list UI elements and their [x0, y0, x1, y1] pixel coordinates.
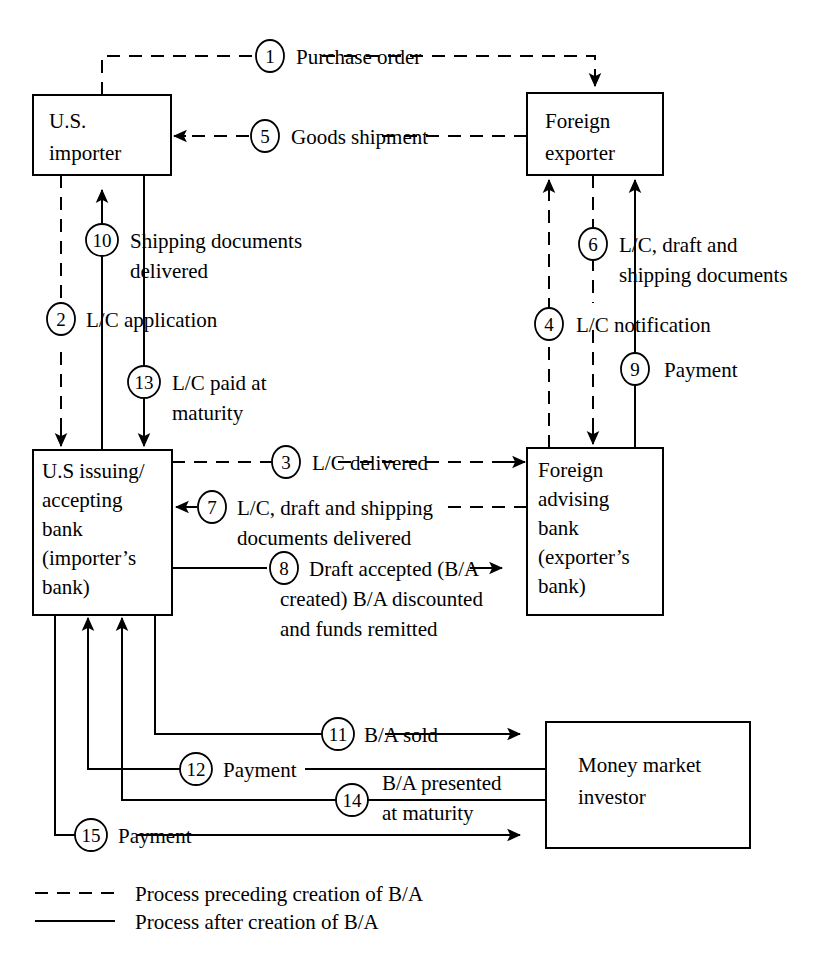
step-label-1: Purchase order — [296, 45, 421, 69]
node-label-line: exporter — [545, 141, 615, 165]
node-label-line: investor — [578, 785, 646, 809]
step-label-2: L/C application — [86, 308, 218, 332]
node-label-line: importer — [49, 141, 121, 165]
step-number: 8 — [279, 558, 289, 579]
step-label-9: Payment — [664, 358, 738, 382]
step-badge-11[interactable]: 11 — [322, 718, 354, 750]
step-badge-9[interactable]: 9 — [621, 353, 649, 385]
step-badge-4[interactable]: 4 — [535, 308, 563, 340]
step-label-10: Shipping documents — [130, 229, 302, 253]
step-label-15: Payment — [118, 824, 192, 848]
step-number: 1 — [265, 46, 275, 67]
diagram-canvas: U.S. importer Foreign exporter U.S issui… — [0, 0, 833, 956]
node-label-line: U.S. — [49, 109, 86, 133]
node-label-line: (importer’s — [42, 546, 136, 570]
step-label-5: Goods shipment — [291, 125, 428, 149]
step-label-10b: delivered — [130, 259, 209, 283]
step-label-3: L/C delivered — [312, 451, 429, 475]
node-label-line: Money market — [578, 753, 701, 777]
node-label-line: U.S issuing/ — [42, 459, 145, 483]
step-label-6: L/C, draft and — [619, 233, 738, 257]
step-badge-3[interactable]: 3 — [272, 446, 300, 478]
node-us-importer[interactable]: U.S. importer — [33, 95, 171, 175]
node-label-line: bank) — [42, 575, 90, 599]
step-number: 10 — [93, 230, 112, 251]
step-number: 9 — [630, 359, 640, 380]
step-badge-14[interactable]: 14 — [336, 784, 368, 816]
node-label-line: Foreign — [545, 109, 611, 133]
step-badge-2[interactable]: 2 — [47, 303, 75, 335]
node-label-line: bank) — [538, 574, 586, 598]
node-label-line: Foreign — [538, 458, 604, 482]
step-number: 5 — [260, 126, 270, 147]
step-label-14b: at maturity — [382, 801, 474, 825]
step-number: 15 — [82, 825, 101, 846]
step-number: 4 — [544, 314, 554, 335]
node-label-line: (exporter’s — [538, 545, 630, 569]
step-badge-1[interactable]: 1 — [256, 40, 284, 72]
node-foreign-advising-bank[interactable]: Foreign advising bank (exporter’s bank) — [527, 448, 663, 615]
step-number: 7 — [207, 497, 217, 518]
process-flow-diagram: U.S. importer Foreign exporter U.S issui… — [0, 0, 833, 956]
step-label-8c: and funds remitted — [280, 617, 438, 641]
legend-label-dashed: Process preceding creation of B/A — [135, 882, 424, 906]
step-label-12: Payment — [223, 758, 297, 782]
step-badge-7[interactable]: 7 — [198, 491, 226, 523]
step-number: 12 — [187, 759, 206, 780]
step-label-11: B/A sold — [364, 723, 439, 747]
legend-row-solid: Process after creation of B/A — [35, 910, 380, 934]
step-badge-15[interactable]: 15 — [75, 819, 107, 851]
step-label-8: Draft accepted (B/A — [309, 557, 480, 581]
node-foreign-exporter[interactable]: Foreign exporter — [527, 93, 663, 175]
step-label-8b: created) B/A discounted — [280, 587, 483, 611]
step-badge-10[interactable]: 10 — [86, 224, 118, 256]
step-label-7b: documents delivered — [237, 526, 412, 550]
node-label-line: bank — [538, 516, 579, 540]
step-badge-8[interactable]: 8 — [270, 552, 298, 584]
node-label-line: accepting — [42, 488, 123, 512]
step-number: 2 — [56, 309, 66, 330]
node-label-line: bank — [42, 517, 83, 541]
step-number: 14 — [343, 790, 363, 811]
legend-label-solid: Process after creation of B/A — [135, 910, 380, 934]
step-number: 3 — [281, 452, 291, 473]
step-number: 6 — [588, 234, 598, 255]
step-label-13: L/C paid at — [172, 371, 267, 395]
node-money-market-investor[interactable]: Money market investor — [546, 722, 750, 848]
step-number: 13 — [135, 372, 154, 393]
node-label-line: advising — [538, 487, 610, 511]
step-number: 11 — [329, 724, 347, 745]
step-label-6b: shipping documents — [619, 263, 788, 287]
step-label-13b: maturity — [172, 401, 244, 425]
step-badge-12[interactable]: 12 — [180, 753, 212, 785]
step-label-7: L/C, draft and shipping — [237, 496, 433, 520]
step-badge-6[interactable]: 6 — [579, 228, 607, 260]
step-badge-13[interactable]: 13 — [128, 366, 160, 398]
step-badge-5[interactable]: 5 — [251, 120, 279, 152]
legend-row-dashed: Process preceding creation of B/A — [35, 882, 424, 906]
step-label-14: B/A presented — [382, 771, 502, 795]
legend: Process preceding creation of B/A Proces… — [35, 882, 424, 934]
step-label-4: L/C notification — [576, 313, 711, 337]
node-us-issuing-bank[interactable]: U.S issuing/ accepting bank (importer’s … — [33, 450, 172, 615]
